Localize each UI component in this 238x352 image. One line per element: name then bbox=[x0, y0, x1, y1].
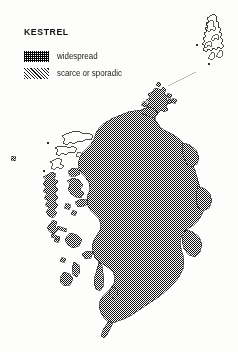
distribution-map-figure: KESTREL widespread scarce or sporadic bbox=[0, 0, 238, 352]
shetland-islands bbox=[196, 14, 224, 65]
shetland-inset-line bbox=[168, 72, 196, 86]
legend-swatch-scarce bbox=[24, 68, 49, 79]
st-kilda-mark bbox=[11, 156, 16, 161]
scottish-mainland bbox=[68, 107, 212, 338]
legend-swatch-widespread bbox=[24, 51, 49, 62]
inner-hebrides bbox=[51, 178, 118, 299]
legend: widespread scarce or sporadic bbox=[24, 50, 164, 84]
legend-label-scarce: scarce or sporadic bbox=[57, 69, 122, 79]
legend-label-widespread: widespread bbox=[57, 52, 98, 62]
legend-item-scarce: scarce or sporadic bbox=[24, 67, 164, 80]
outer-hebrides-north bbox=[47, 131, 93, 170]
page-title: KESTREL bbox=[24, 26, 69, 37]
legend-item-widespread: widespread bbox=[24, 50, 164, 63]
orkney-islands bbox=[141, 82, 177, 122]
outer-hebrides-south bbox=[43, 172, 60, 243]
minor-island-dot bbox=[43, 170, 45, 172]
